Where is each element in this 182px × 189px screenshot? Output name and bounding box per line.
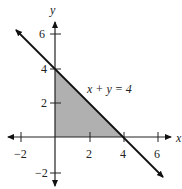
tick-label: 2 bbox=[41, 96, 47, 110]
tick-label: 6 bbox=[39, 27, 45, 41]
equation-label: x + y = 4 bbox=[86, 82, 132, 96]
x-axis-label: x bbox=[175, 131, 182, 145]
tick-label: 4 bbox=[41, 62, 47, 76]
line-x-plus-y-equals-4 bbox=[16, 30, 55, 69]
tick-label: −2 bbox=[14, 147, 27, 161]
chart: y x −2 2 4 6 6 4 2 −2 x + y = 4 bbox=[0, 0, 182, 189]
y-axis-label: y bbox=[49, 3, 56, 17]
tick-label: 6 bbox=[154, 147, 160, 161]
tick-label: 4 bbox=[120, 147, 126, 161]
tick-label: 2 bbox=[86, 147, 92, 161]
tick-label: −2 bbox=[35, 166, 48, 180]
